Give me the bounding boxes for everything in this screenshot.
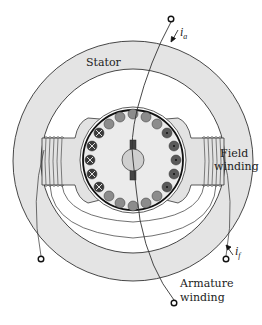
dc-machine-diagram: Stator Field winding Armature winding ia… <box>0 0 262 325</box>
armature-winding-label-2: winding <box>180 291 225 304</box>
armature-terminal-top <box>168 16 174 22</box>
field-terminal-right <box>223 256 229 262</box>
field-terminal-left <box>38 256 44 262</box>
armature-current-arrow <box>171 30 178 42</box>
field-winding-label-1: Field <box>220 147 248 160</box>
field-current-label: if <box>235 244 242 260</box>
armature-current-label: ia <box>180 25 187 41</box>
armature-winding-label-1: Armature <box>179 277 233 290</box>
armature-terminal-bottom <box>171 300 177 306</box>
stator-label: Stator <box>86 56 122 69</box>
field-winding-label-2: winding <box>214 160 259 173</box>
